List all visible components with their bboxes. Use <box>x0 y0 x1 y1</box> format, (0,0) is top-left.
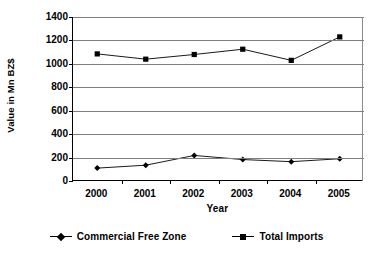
data-point-diamond-marker <box>94 165 100 171</box>
y-axis-tick-mark <box>69 64 73 65</box>
data-point-square-marker <box>192 52 197 57</box>
y-axis-tick-mark <box>69 17 73 18</box>
y-axis-tick-mark <box>69 158 73 159</box>
x-axis-tick-label: 2005 <box>309 188 369 199</box>
data-point-diamond-marker <box>288 159 294 165</box>
y-axis-tick-mark <box>69 181 73 182</box>
x-axis-tick-mark <box>170 180 171 184</box>
x-axis-tick-mark <box>267 180 268 184</box>
gridline <box>73 111 364 112</box>
y-axis-tick-mark <box>69 134 73 135</box>
y-axis-title-text: Value in Mn BZ$ <box>5 58 16 132</box>
line-chart: Value in Mn BZ$ 140012001000800600400200… <box>0 0 373 254</box>
gridline <box>73 40 364 41</box>
y-axis-tick-mark <box>69 40 73 41</box>
x-axis-tick-mark <box>219 180 220 184</box>
legend-item-commercial-free-zone[interactable]: Commercial Free Zone <box>50 231 187 242</box>
gridline <box>73 64 364 65</box>
legend-label: Total Imports <box>259 231 323 242</box>
y-axis-tick-label: 1400 <box>20 12 68 22</box>
data-point-square-marker <box>289 58 294 63</box>
data-point-diamond-marker <box>143 162 149 168</box>
y-axis-tick-label: 200 <box>20 153 68 163</box>
series-layer <box>73 17 364 181</box>
legend-label: Commercial Free Zone <box>77 231 187 242</box>
y-axis-tick-label: 0 <box>20 176 68 186</box>
plot-right-border <box>362 17 363 181</box>
data-point-square-marker <box>143 57 148 62</box>
y-axis-tick-label: 600 <box>20 106 68 116</box>
x-axis-tick-mark <box>316 180 317 184</box>
series-total-imports <box>95 34 343 63</box>
gridline <box>73 17 364 18</box>
x-axis-tick-mark <box>122 180 123 184</box>
series-commercial-free-zone <box>94 152 343 171</box>
chart-legend: Commercial Free Zone Total Imports <box>0 231 373 242</box>
x-axis-title: Year <box>72 203 363 214</box>
y-axis-tick-label: 1000 <box>20 59 68 69</box>
plot-area <box>72 17 363 181</box>
gridline <box>73 134 364 135</box>
data-point-square-marker <box>95 51 100 56</box>
y-axis-tick-mark <box>69 87 73 88</box>
legend-marker-square-icon <box>232 232 254 241</box>
legend-marker-diamond-icon <box>50 232 72 241</box>
gridline <box>73 158 364 159</box>
y-axis-tick-label: 800 <box>20 82 68 92</box>
y-axis-tick-mark <box>69 111 73 112</box>
y-axis-tick-label: 400 <box>20 129 68 139</box>
data-point-square-marker <box>337 34 342 39</box>
y-axis-tick-labels: 1400120010008006004002000 <box>18 0 68 254</box>
legend-item-total-imports[interactable]: Total Imports <box>232 231 323 242</box>
data-point-square-marker <box>240 47 245 52</box>
gridline <box>73 87 364 88</box>
y-axis-tick-label: 1200 <box>20 35 68 45</box>
y-axis-title: Value in Mn BZ$ <box>2 28 18 162</box>
